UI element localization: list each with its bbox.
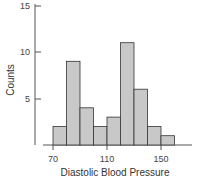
histogram-bar — [121, 43, 135, 145]
y-axis-label: Counts — [5, 64, 16, 96]
histogram-bar — [53, 126, 67, 145]
y-tick-label-10: 10 — [20, 47, 30, 57]
x-tick-label-150: 150 — [153, 154, 168, 164]
histogram-bar — [134, 89, 148, 145]
histogram-bars — [53, 43, 175, 145]
y-tick-label-5: 5 — [25, 94, 30, 104]
x-axis-label: Diastolic Blood Pressure — [61, 167, 170, 178]
y-tick-label-15: 15 — [20, 1, 30, 11]
histogram-bar — [107, 117, 121, 145]
histogram-bar — [94, 126, 108, 145]
histogram-chart: 15 10 5 Counts 70 110 150 Diastolic Bloo… — [0, 0, 202, 188]
histogram-bar — [80, 108, 94, 145]
histogram-bar — [161, 136, 175, 145]
x-tick-label-110: 110 — [100, 154, 114, 164]
x-tick-label-70: 70 — [48, 154, 58, 164]
histogram-bar — [148, 126, 162, 145]
histogram-bar — [67, 61, 81, 145]
